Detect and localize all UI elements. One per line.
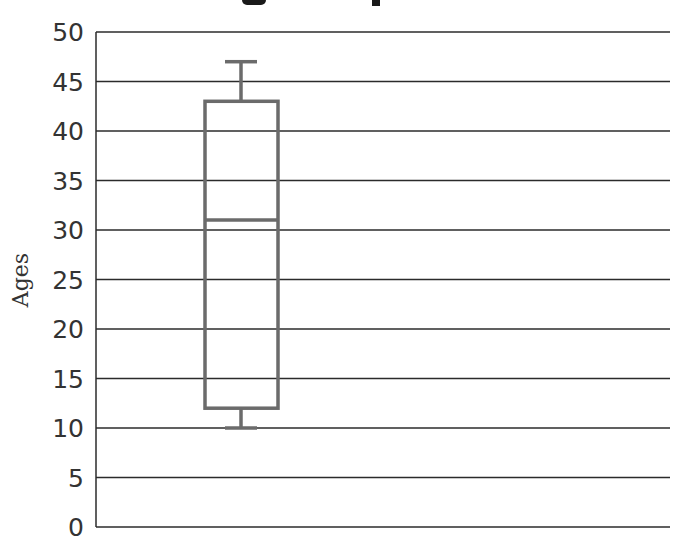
y-tick-label: 0: [68, 513, 84, 542]
y-tick-label: 10: [52, 414, 84, 443]
y-tick-label: 5: [68, 464, 84, 493]
box-element: [205, 62, 278, 428]
y-tick-label: 30: [52, 216, 84, 245]
gridlines: [96, 32, 670, 527]
y-tick-label: 40: [52, 117, 84, 146]
y-tick-label: 25: [52, 266, 84, 295]
y-tick-label: 35: [52, 167, 84, 196]
iqr-box: [205, 101, 278, 408]
y-tick-labels: 05101520253035404550: [52, 18, 84, 542]
y-tick-label: 50: [52, 18, 84, 47]
box-plot: 05101520253035404550: [0, 0, 674, 555]
y-tick-label: 15: [52, 365, 84, 394]
y-tick-label: 45: [52, 68, 84, 97]
y-tick-label: 20: [52, 315, 84, 344]
